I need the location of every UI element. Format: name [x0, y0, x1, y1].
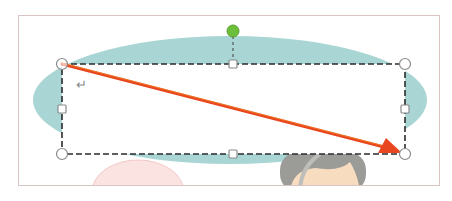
person-illustration[interactable]: [280, 152, 366, 192]
resize-handle-top[interactable]: [229, 60, 237, 68]
resize-handle-bottom[interactable]: [229, 150, 237, 158]
resize-handle-left[interactable]: [58, 105, 66, 113]
resize-handle-top-left[interactable]: [57, 59, 68, 70]
resize-handle-bottom-right[interactable]: [400, 149, 411, 160]
resize-handle-top-right[interactable]: [400, 59, 411, 70]
resize-handle-right[interactable]: [401, 105, 409, 113]
rotate-handle[interactable]: [227, 25, 239, 37]
resize-handle-bottom-left[interactable]: [57, 149, 68, 160]
drawing-canvas: [0, 0, 452, 201]
paragraph-return-mark: ↵: [76, 78, 87, 91]
pink-figure-shape[interactable]: [92, 160, 184, 201]
